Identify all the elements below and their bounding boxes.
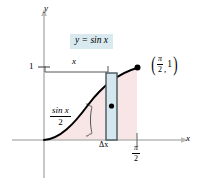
- point-label-y-value: 1: [167, 60, 172, 70]
- height-fraction-label: sin x 2: [50, 106, 71, 127]
- point-label-x-fraction: π 2: [157, 55, 163, 74]
- width-bracket-x: [45, 66, 108, 72]
- height-fraction-numerator: sin x: [50, 106, 71, 116]
- sine-area-figure: y x 1 x Δx y = sin x sin x 2 π 2 ( π 2 ,…: [0, 0, 200, 190]
- point-label-comma: ,: [164, 65, 166, 74]
- y-axis-label: y: [44, 4, 48, 13]
- point-label-x-denominator: 2: [157, 65, 163, 74]
- y-axis-tick-label-one: 1: [29, 62, 34, 71]
- figure-canvas: [0, 0, 200, 190]
- width-marker-label: x: [72, 57, 76, 66]
- equation-label: y = sin x: [70, 34, 113, 49]
- x-axis-label: x: [186, 134, 190, 143]
- x-axis-tick-label-pi-over-2: π 2: [132, 144, 140, 163]
- pi-over-2-denominator: 2: [132, 154, 140, 163]
- point-coordinate-label: ( π 2 , 1 ): [150, 55, 179, 74]
- curve-endpoint-dot: [135, 65, 141, 71]
- point-label-close-paren: ): [173, 56, 177, 74]
- delta-x-label: Δx: [99, 141, 108, 149]
- point-label-x-numerator: π: [157, 55, 163, 64]
- height-fraction-denominator: 2: [56, 117, 65, 127]
- point-label-open-paren: (: [151, 56, 155, 74]
- rectangle-midpoint-dot: [109, 103, 114, 108]
- shaded-area-under-curve: [44, 68, 137, 140]
- pi-over-2-numerator: π: [132, 144, 140, 153]
